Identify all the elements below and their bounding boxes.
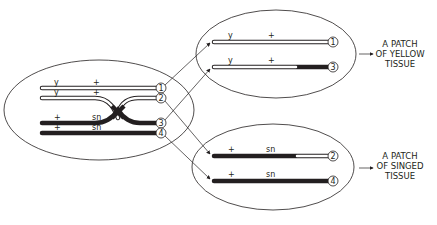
top-label-y-3: y [228,56,233,65]
top-number-1: 1 [328,37,338,47]
bottom-label-plus-4: + [228,170,235,179]
segregation-arrows [165,43,210,179]
svg-text:1: 1 [158,84,163,93]
daughter-cell-bottom: + sn + sn 2 4 [192,124,354,210]
chromosome-number-4: 4 [156,128,166,138]
svg-text:OF YELLOW: OF YELLOW [375,49,425,59]
singed-tissue-caption: A PATCH OF SINGED TISSUE [376,151,423,181]
svg-text:A PATCH: A PATCH [382,151,417,161]
svg-text:4: 4 [158,129,163,138]
top-label-y-1: y [228,31,233,40]
svg-text:3: 3 [330,63,335,72]
chromosome-number-3: 3 [156,118,166,128]
top-number-3: 3 [328,62,338,72]
svg-text:OF SINGED: OF SINGED [376,161,423,171]
label-y-1: y [54,78,59,87]
label-y-2: y [54,88,59,97]
daughter-top-outline [196,10,356,98]
yellow-tissue-caption: A PATCH OF YELLOW TISSUE [375,39,425,69]
chromosome-number-2: 2 [156,93,166,103]
bottom-label-sn-2: sn [266,145,275,154]
svg-text:3: 3 [158,119,163,128]
label-plus-2: + [93,88,100,97]
svg-text:A PATCH: A PATCH [382,39,417,49]
mitotic-recombination-diagram: y + y + + sn + sn 1 2 3 4 [0,0,437,225]
top-label-plus-1: + [268,31,275,40]
arrow-3-to-top [165,69,210,120]
label-plus-1: + [93,78,100,87]
label-sn-4: sn [92,123,101,132]
daughter-bottom-outline [192,124,354,210]
bottom-label-plus-2: + [228,145,235,154]
bottom-label-sn-4: sn [266,170,275,179]
arrow-4-to-bottom [165,136,210,179]
svg-text:TISSUE: TISSUE [384,171,415,181]
label-plus-4: + [54,123,61,132]
svg-text:TISSUE: TISSUE [384,59,415,69]
chromosome-number-1: 1 [156,83,166,93]
parent-cell: y + y + + sn + sn 1 2 3 4 [4,60,194,160]
svg-text:1: 1 [330,38,335,47]
label-plus-3: + [54,113,61,122]
svg-text:2: 2 [330,152,335,161]
svg-text:4: 4 [330,177,335,186]
svg-text:2: 2 [158,94,163,103]
top-label-plus-3: + [268,56,275,65]
arrow-2-to-bottom [165,101,210,154]
bottom-number-4: 4 [328,176,338,186]
arrow-1-to-top [165,43,210,85]
label-sn-3: sn [92,113,101,122]
bottom-number-2: 2 [328,151,338,161]
parent-cell-outline [4,60,194,160]
daughter-cell-top: y + y + 1 3 [196,10,356,98]
